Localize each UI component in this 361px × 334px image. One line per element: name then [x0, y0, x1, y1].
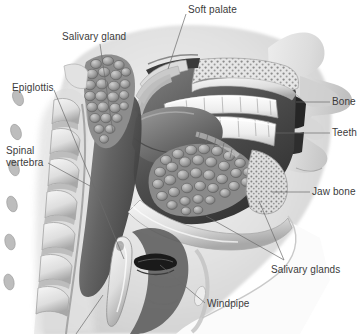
label-soft-palate: Soft palate	[188, 4, 237, 16]
label-bone: Bone	[332, 96, 356, 108]
label-teeth: Teeth	[332, 127, 357, 139]
label-salivary-glands: Salivary glands	[271, 264, 340, 276]
label-windpipe: Windpipe	[207, 298, 250, 310]
label-spinal-vertebra: Spinal vertebra	[6, 145, 68, 168]
anatomy-figure: Soft palate Salivary gland Epiglottis Sp…	[0, 0, 361, 334]
label-epiglottis: Epiglottis	[12, 82, 54, 94]
label-salivary-gland: Salivary gland	[62, 31, 126, 43]
label-jaw-bone: Jaw bone	[312, 186, 356, 198]
